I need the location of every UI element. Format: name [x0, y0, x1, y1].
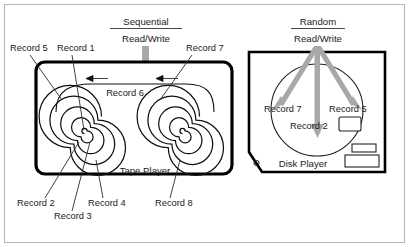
sequential-readwrite-label: Read/Write [122, 33, 170, 44]
sequential-title: Sequential [123, 16, 168, 27]
tape-label-record5: Record 5 [10, 43, 48, 53]
disk-panel-indicator [352, 144, 376, 152]
tape-player-body [36, 62, 232, 174]
disk-player-name: Disk Player [279, 158, 328, 169]
disk-cartridge-slot [339, 117, 361, 131]
tape-label-record3: Record 3 [54, 211, 92, 221]
tape-label-record6: Record 6 [106, 88, 144, 98]
disk-panel-drive-slot [345, 155, 379, 167]
disk-label-record5: Record 5 [329, 104, 367, 114]
tape-label-record1: Record 1 [57, 43, 95, 53]
disk-label-record7: Record 7 [264, 104, 302, 114]
figure-container: Sequential Read/Write Record 6 Tape Play… [0, 0, 409, 247]
tape-label-record8: Record 8 [155, 198, 193, 208]
random-readwrite-label: Read/Write [294, 33, 342, 44]
tape-label-record2: Record 2 [17, 198, 55, 208]
tape-player-name: Tape Player [120, 165, 171, 176]
disk-label-record2: Record 2 [290, 121, 328, 131]
tape-label-record7: Record 7 [186, 43, 224, 53]
storage-access-diagram: Sequential Read/Write Record 6 Tape Play… [0, 0, 409, 247]
tape-label-record4: Record 4 [88, 198, 126, 208]
random-title: Random [300, 16, 336, 27]
